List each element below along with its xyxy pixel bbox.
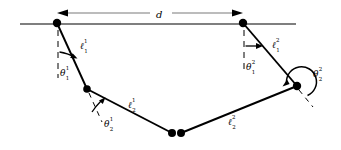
label-joint-angle-theta-1-1: θ11 (60, 63, 69, 79)
joint-elbow-arm2 (293, 82, 301, 90)
diagram-canvas (0, 0, 341, 150)
label-link-length-l-1-2: ℓ21 (272, 35, 280, 51)
dual-arm-kinematic-figure: d ℓ11 θ11 ℓ12 θ12 ℓ21 θ21 θ22 ℓ22 (0, 0, 341, 150)
label-joint-angle-theta-2-1: θ12 (104, 114, 113, 130)
arm2-lower-link (181, 86, 297, 133)
joint-shoulder-arm1 (53, 19, 61, 27)
joint-elbow-arm1 (83, 85, 91, 93)
dimension-arrowhead-left (57, 10, 68, 17)
separation-dimension-line (57, 10, 243, 17)
label-link-length-l-2-2: ℓ22 (228, 112, 236, 128)
dimension-arrowhead-right (232, 10, 243, 17)
label-link-length-l-2-1: ℓ12 (128, 95, 136, 111)
label-joint-angle-theta-2-2: θ22 (313, 64, 322, 80)
joint-shoulder-arm2 (239, 19, 247, 27)
label-separation-distance: d (156, 5, 162, 21)
label-link-length-l-1-1: ℓ11 (80, 36, 88, 52)
label-joint-angle-theta-1-2: θ21 (246, 57, 255, 73)
arm1-shoulder-angle-arc (60, 52, 78, 59)
arm2-upper-link (243, 23, 297, 86)
joint-hand-arm2 (177, 129, 185, 137)
joint-hand-arm1 (168, 129, 176, 137)
